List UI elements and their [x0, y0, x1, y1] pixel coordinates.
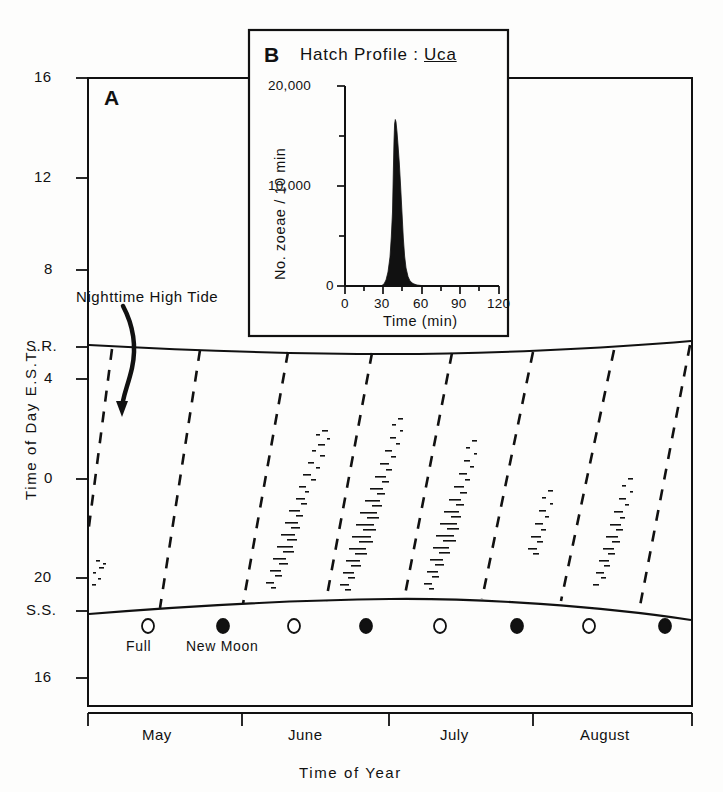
panel-a-y-axis-title: Time of Day E.S.T. — [22, 347, 39, 500]
y-tick-4: 4 — [44, 369, 53, 386]
moon-phase-symbols — [142, 619, 671, 633]
panel-a-x-axis-title: Time of Year — [299, 764, 402, 781]
y-tick-sunset: S.S. — [26, 601, 56, 618]
panel-b-x-tick-90: 90 — [451, 296, 467, 311]
panel-b-x-tick-30: 30 — [374, 296, 390, 311]
panel-a-letter: A — [104, 86, 120, 110]
panel-b-y-tick-20000: 20,000 — [268, 78, 311, 93]
panel-b-letter: B — [264, 43, 280, 67]
moon-legend-new: New Moon — [186, 638, 259, 654]
y-tick-20: 20 — [34, 568, 52, 585]
panel-a-x-axis — [88, 713, 692, 726]
figure-root: A 16 12 8 S.R. 4 0 20 S.S. 16 Time of Da… — [0, 0, 723, 792]
y-tick-16-top: 16 — [34, 68, 52, 85]
y-tick-12: 12 — [34, 168, 52, 185]
sunset-curve — [89, 599, 691, 620]
nighttime-high-tide-lines — [0, 345, 690, 612]
sunrise-curve — [89, 341, 691, 354]
nighttime-high-tide-label: Nighttime High Tide — [76, 288, 218, 305]
panel-b-x-tick-120: 120 — [487, 296, 510, 311]
y-tick-8: 8 — [44, 260, 53, 277]
panel-b-title: Hatch Profile : — [300, 45, 419, 65]
panel-b-title-taxon: Uca — [424, 45, 457, 65]
x-tick-august: August — [580, 726, 630, 743]
x-tick-july: July — [440, 726, 469, 743]
x-tick-may: May — [142, 726, 172, 743]
panel-b-y-axis-title: No. zoeae / 10 min — [272, 147, 288, 280]
y-tick-16-bottom: 16 — [34, 668, 52, 685]
hatching-event-dots — [92, 418, 633, 591]
panel-b-x-tick-0: 0 — [341, 296, 349, 311]
panel-b-y-tick-0: 0 — [326, 278, 334, 293]
figure-canvas — [0, 0, 723, 792]
panel-b-x-axis-title: Time (min) — [383, 313, 458, 329]
nighttime-high-tide-arrow — [116, 306, 134, 417]
moon-legend-full: Full — [126, 638, 151, 654]
y-tick-0: 0 — [44, 469, 53, 486]
x-tick-june: June — [288, 726, 323, 743]
panel-b-x-tick-60: 60 — [413, 296, 429, 311]
panel-a-y-ticks — [76, 78, 88, 678]
